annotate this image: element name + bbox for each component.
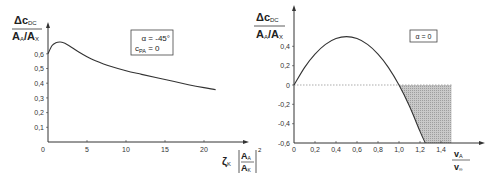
xlabel-numerator: vA bbox=[454, 149, 463, 159]
left-x-tick-label: 0 bbox=[41, 146, 45, 153]
right-x-tick-label: 0,6 bbox=[352, 146, 362, 153]
right-x-tick-label: 1,2 bbox=[415, 146, 425, 153]
left-x-axis-arrow-icon bbox=[243, 140, 249, 144]
annotation-alpha: α = -45° bbox=[141, 34, 170, 43]
left-chart: ΔcDC AA/AX 0,1 0,2 0,3 0,4 0,5 0,6 bbox=[12, 14, 262, 173]
right-y-tick-label: -0,2 bbox=[278, 101, 290, 108]
right-annotation-box: α = 0 bbox=[410, 30, 437, 42]
figure-canvas: ΔcDC AA/AX 0,1 0,2 0,3 0,4 0,5 0,6 bbox=[0, 0, 495, 182]
right-shaded-region bbox=[399, 85, 452, 143]
left-x-tick-label: 5 bbox=[85, 146, 89, 153]
right-chart: ΔcDC AA/AX 0,4 0,2 0 -0,2 -0,4 -0,6 bbox=[254, 5, 485, 172]
xlabel-denominator: v∞ bbox=[454, 162, 463, 172]
annotation-alpha: α = 0 bbox=[416, 33, 432, 40]
left-x-tick-label: 15 bbox=[161, 146, 169, 153]
left-y-axis-arrow-icon bbox=[46, 22, 50, 28]
right-y-axis-arrow-icon bbox=[292, 5, 296, 11]
right-y-axis-label: ΔcDC AA/AX bbox=[254, 11, 285, 40]
right-y-tick-label: -0,6 bbox=[278, 140, 290, 147]
left-y-ticks: 0,1 0,2 0,3 0,4 0,5 0,6 bbox=[34, 51, 48, 132]
left-y-tick-label: 0,4 bbox=[34, 80, 44, 87]
right-x-tick-label: 1,0 bbox=[394, 146, 404, 153]
right-x-tick-label: 0,2 bbox=[310, 146, 320, 153]
right-y-tick-label: 0,4 bbox=[280, 43, 290, 50]
right-x-tick-label: 1,4 bbox=[436, 146, 446, 153]
left-y-tick-label: 0,5 bbox=[34, 65, 44, 72]
right-y-ticks: 0,4 0,2 0 -0,2 -0,4 -0,6 bbox=[278, 43, 294, 147]
right-x-tick-label: 0 bbox=[292, 146, 296, 153]
left-x-tick-label: 10 bbox=[122, 146, 130, 153]
right-ylabel-denominator: AA/AX bbox=[256, 28, 283, 40]
right-ylabel-numerator: ΔcDC bbox=[256, 11, 279, 23]
left-x-tick-label: 20 bbox=[200, 146, 208, 153]
right-y-tick-label: 0 bbox=[286, 82, 290, 89]
annotation-cpa: cPA = 0 bbox=[135, 44, 160, 54]
right-x-tick-label: 0,4 bbox=[331, 146, 341, 153]
left-y-tick-label: 0,2 bbox=[34, 109, 44, 116]
right-x-axis-label: vA v∞ bbox=[452, 149, 470, 172]
right-x-axis-arrow-icon bbox=[479, 141, 485, 145]
xlabel-frac-numerator: AA bbox=[241, 151, 252, 161]
left-annotation-box: α = -45° cPA = 0 bbox=[131, 30, 173, 55]
left-y-tick-label: 0,3 bbox=[34, 95, 44, 102]
xlabel-zeta: ζK bbox=[222, 155, 231, 168]
xlabel-exponent: 2 bbox=[258, 147, 262, 153]
right-x-tick-label: 0,8 bbox=[373, 146, 383, 153]
left-ylabel-denominator: AA/AX bbox=[12, 30, 39, 42]
right-y-tick-label: 0,2 bbox=[280, 62, 290, 69]
left-y-axis-label: ΔcDC AA/AX bbox=[12, 14, 42, 42]
right-y-tick-label: -0,4 bbox=[278, 120, 290, 127]
left-y-tick-label: 0,1 bbox=[34, 124, 44, 131]
left-ylabel-numerator: ΔcDC bbox=[14, 14, 37, 26]
left-x-axis-label: ζK AA AK 2 bbox=[222, 147, 262, 173]
left-y-tick-label: 0,6 bbox=[34, 51, 44, 58]
xlabel-frac-denominator: AK bbox=[241, 163, 252, 173]
